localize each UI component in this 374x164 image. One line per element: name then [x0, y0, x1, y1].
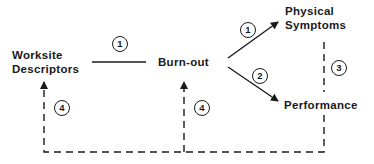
feedback-to-worksite	[44, 82, 324, 152]
path-number-burnout-physical: 1	[240, 22, 256, 38]
path-number-physical-performance: 3	[331, 60, 347, 76]
worksite-label-line1: Worksite	[12, 48, 79, 62]
node-performance: Performance	[284, 98, 358, 112]
path-number-burnout-performance: 2	[252, 68, 268, 84]
path-number-feedback-worksite: 4	[54, 100, 70, 116]
node-worksite-descriptors: Worksite Descriptors	[12, 48, 79, 76]
node-physical-symptoms: Physical Symptoms	[285, 4, 346, 32]
physical-label-line1: Physical	[285, 4, 346, 18]
path-number-worksite-burnout: 1	[112, 36, 128, 52]
burnout-path-diagram: Worksite Descriptors Burn-out Physical S…	[0, 0, 374, 164]
worksite-label-line2: Descriptors	[12, 62, 79, 76]
node-burnout: Burn-out	[158, 55, 209, 69]
path-number-feedback-burnout: 4	[194, 100, 210, 116]
physical-label-line2: Symptoms	[285, 18, 346, 32]
